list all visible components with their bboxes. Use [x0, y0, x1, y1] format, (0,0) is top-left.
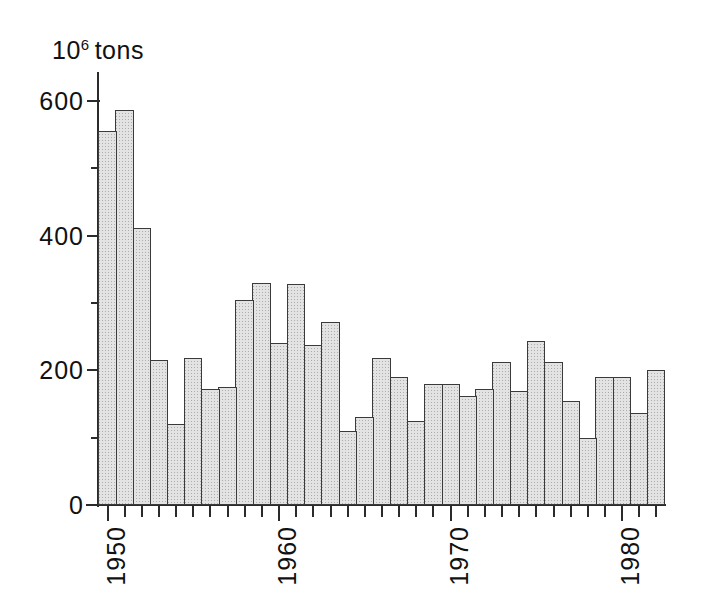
x-axis-minor-tick — [553, 506, 555, 517]
x-axis-minor-tick — [398, 506, 400, 517]
y-axis-major-tick — [87, 100, 100, 102]
histogram-bar — [338, 431, 357, 505]
histogram-bar — [458, 396, 477, 505]
x-axis-minor-tick — [227, 506, 229, 517]
x-axis-minor-tick — [295, 506, 297, 517]
x-axis-minor-tick — [312, 506, 314, 517]
x-axis-major-tick — [278, 506, 280, 521]
x-axis-minor-tick — [158, 506, 160, 517]
histogram-bar — [270, 343, 289, 505]
y-unit-exponent: 6 — [81, 36, 90, 53]
x-axis-minor-tick — [570, 506, 572, 517]
x-axis-minor-tick — [655, 506, 657, 517]
histogram-bar — [132, 228, 151, 505]
histogram-bar — [544, 362, 563, 505]
y-axis-tick-label: 400 — [39, 221, 84, 250]
x-axis-minor-tick — [535, 506, 537, 517]
x-axis-minor-tick — [381, 506, 383, 517]
histogram-bar — [218, 387, 237, 505]
x-axis-minor-tick — [467, 506, 469, 517]
histogram-bar — [304, 345, 323, 505]
histogram-bar — [235, 300, 254, 505]
x-axis-minor-tick — [638, 506, 640, 517]
x-axis-tick-label: 1970 — [444, 526, 473, 586]
x-axis-major-tick — [107, 506, 109, 521]
histogram-bar — [527, 341, 546, 505]
x-axis-ticks — [98, 506, 668, 522]
histogram-bar — [510, 391, 529, 505]
x-axis-minor-tick — [175, 506, 177, 517]
x-axis-major-tick — [450, 506, 452, 521]
x-axis-minor-tick — [192, 506, 194, 517]
histogram-bar — [647, 370, 666, 505]
x-axis-minor-tick — [415, 506, 417, 517]
x-axis-minor-tick — [364, 506, 366, 517]
y-axis-tick-label: 0 — [69, 491, 84, 520]
histogram-bar — [424, 384, 443, 505]
histogram-chart: 106tons 0200400600 1950196019701980 — [0, 0, 704, 607]
histogram-bar — [475, 389, 494, 505]
histogram-bar — [492, 362, 511, 505]
histogram-bar — [613, 377, 632, 505]
x-axis-minor-tick — [484, 506, 486, 517]
histogram-bar — [407, 421, 426, 505]
histogram-bar — [287, 284, 306, 505]
histogram-bar — [561, 401, 580, 505]
x-axis-minor-tick — [244, 506, 246, 517]
x-axis-minor-tick — [604, 506, 606, 517]
histogram-bar — [441, 384, 460, 505]
x-axis-minor-tick — [141, 506, 143, 517]
x-axis-tick-label: 1950 — [101, 526, 130, 586]
y-axis-unit-label: 106tons — [52, 36, 144, 65]
histogram-bar — [184, 358, 203, 505]
y-axis-tick-label: 200 — [39, 356, 84, 385]
x-axis-minor-tick — [587, 506, 589, 517]
x-axis-minor-tick — [330, 506, 332, 517]
x-axis-tick-label: 1980 — [616, 526, 645, 586]
x-axis-minor-tick — [518, 506, 520, 517]
y-unit-base: 10 — [52, 36, 81, 64]
histogram-bar — [98, 131, 117, 505]
x-axis-tick-labels: 1950196019701980 — [98, 526, 668, 606]
histogram-bar — [321, 322, 340, 505]
y-axis-tick-labels: 0200400600 — [0, 101, 84, 505]
histogram-bar — [252, 283, 271, 505]
histogram-bar — [630, 413, 649, 505]
histogram-bar — [578, 438, 597, 505]
plot-area — [98, 101, 664, 505]
y-axis-tick-label: 600 — [39, 87, 84, 116]
histogram-bar — [390, 377, 409, 505]
x-axis-minor-tick — [261, 506, 263, 517]
histogram-bar — [201, 389, 220, 505]
x-axis-minor-tick — [209, 506, 211, 517]
histogram-bar — [595, 377, 614, 505]
histogram-bar — [167, 424, 186, 505]
x-axis-minor-tick — [432, 506, 434, 517]
x-axis-minor-tick — [124, 506, 126, 517]
histogram-bar — [149, 360, 168, 505]
x-axis-tick-label: 1960 — [273, 526, 302, 586]
histogram-bar — [372, 358, 391, 505]
histogram-bar — [355, 417, 374, 505]
x-axis-major-tick — [621, 506, 623, 521]
y-unit-word: tons — [95, 36, 144, 64]
x-axis-minor-tick — [347, 506, 349, 517]
x-axis-minor-tick — [501, 506, 503, 517]
histogram-bar — [115, 110, 134, 505]
